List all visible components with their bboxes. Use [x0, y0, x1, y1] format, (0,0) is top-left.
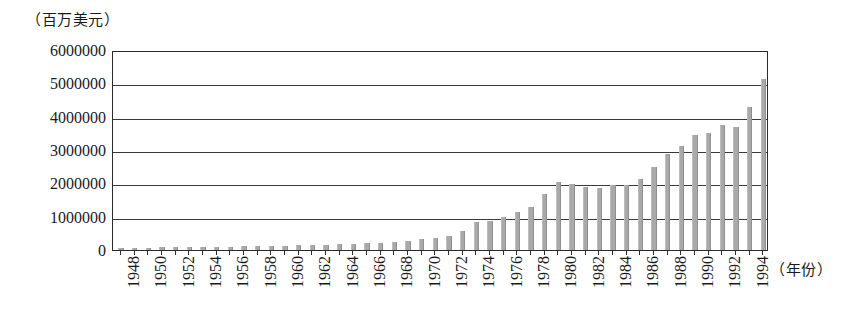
x-tick-label: 1956 — [235, 256, 251, 288]
x-tick — [270, 251, 271, 255]
bar — [323, 245, 328, 250]
exports-bar-chart: （百万美元） 600000050000004000000300000020000… — [0, 0, 855, 321]
x-axis-tick-labels: 1948195019521954195619581960196219641966… — [112, 256, 768, 318]
x-tick — [557, 251, 558, 255]
bar — [187, 247, 192, 250]
x-tick — [229, 251, 230, 255]
x-tick-label: 1972 — [454, 256, 470, 288]
x-tick — [311, 251, 312, 255]
bar — [665, 154, 670, 250]
x-tick — [516, 251, 517, 255]
x-tick — [188, 251, 189, 255]
x-tick — [298, 251, 299, 255]
x-tick-label: 1988 — [673, 256, 689, 288]
x-tick — [735, 251, 736, 255]
x-tick — [393, 251, 394, 255]
bar — [351, 244, 356, 250]
x-tick — [366, 251, 367, 255]
x-tick — [694, 251, 695, 255]
x-tick — [284, 251, 285, 255]
x-tick — [639, 251, 640, 255]
x-tick — [448, 251, 449, 255]
x-tick — [352, 251, 353, 255]
bar — [747, 107, 752, 250]
x-tick-label: 1986 — [645, 256, 661, 288]
x-tick — [134, 251, 135, 255]
x-tick — [530, 251, 531, 255]
x-tick-label: 1964 — [345, 256, 361, 288]
x-tick — [667, 251, 668, 255]
bar — [446, 236, 451, 250]
x-tick-label: 1960 — [290, 256, 306, 288]
x-tick-label: 1984 — [618, 256, 634, 288]
x-tick — [612, 251, 613, 255]
x-tick-label: 1952 — [181, 256, 197, 288]
x-tick-label: 1976 — [509, 256, 525, 288]
bar — [692, 135, 697, 250]
x-tick-label: 1962 — [317, 256, 333, 288]
bar — [132, 248, 137, 250]
x-tick-label: 1980 — [563, 256, 579, 288]
y-tick-label: 4000000 — [50, 110, 106, 126]
bar — [487, 221, 492, 250]
bar — [556, 182, 561, 250]
bar — [228, 247, 233, 251]
x-tick — [421, 251, 422, 255]
y-axis-tick-labels: 6000000500000040000003000000200000010000… — [0, 51, 106, 251]
x-tick — [489, 251, 490, 255]
bar — [733, 127, 738, 250]
x-tick — [325, 251, 326, 255]
bar — [569, 184, 574, 250]
x-tick — [257, 251, 258, 255]
bar — [118, 248, 123, 250]
x-tick — [680, 251, 681, 255]
x-tick — [175, 251, 176, 255]
x-tick-label: 1982 — [591, 256, 607, 288]
x-tick — [120, 251, 121, 255]
bar — [419, 239, 424, 250]
y-tick-label: 0 — [98, 243, 106, 259]
x-axis-unit-label: （年份） — [770, 258, 832, 279]
x-tick-label: 1970 — [427, 256, 443, 288]
bar — [624, 185, 629, 250]
x-tick — [339, 251, 340, 255]
x-tick-label: 1968 — [399, 256, 415, 288]
bar — [159, 247, 164, 250]
x-tick — [380, 251, 381, 255]
bar — [378, 243, 383, 250]
y-axis-unit-label: （百万美元） — [26, 8, 119, 29]
bar — [460, 231, 465, 250]
bar — [679, 146, 684, 250]
bar — [269, 246, 274, 250]
x-tick-label: 1992 — [727, 256, 743, 288]
bar — [146, 248, 151, 250]
x-tick-label: 1994 — [755, 256, 771, 288]
x-tick-label: 1974 — [481, 256, 497, 288]
x-tick — [434, 251, 435, 255]
bar — [706, 133, 711, 250]
bar-series — [113, 52, 767, 250]
x-tick — [598, 251, 599, 255]
bar — [515, 212, 520, 250]
x-tick — [626, 251, 627, 255]
bar — [583, 187, 588, 250]
x-tick — [653, 251, 654, 255]
bar — [364, 243, 369, 250]
x-tick — [216, 251, 217, 255]
x-tick — [544, 251, 545, 255]
x-tick — [503, 251, 504, 255]
x-tick — [243, 251, 244, 255]
bar — [405, 241, 410, 250]
x-tick — [749, 251, 750, 255]
x-tick-label: 1958 — [263, 256, 279, 288]
x-tick — [407, 251, 408, 255]
y-tick-label: 3000000 — [50, 143, 106, 159]
x-tick — [475, 251, 476, 255]
x-tick — [462, 251, 463, 255]
x-tick — [202, 251, 203, 255]
x-tick — [708, 251, 709, 255]
bar — [474, 222, 479, 250]
bar — [255, 246, 260, 250]
y-tick-label: 1000000 — [50, 210, 106, 226]
y-tick-label: 5000000 — [50, 76, 106, 92]
